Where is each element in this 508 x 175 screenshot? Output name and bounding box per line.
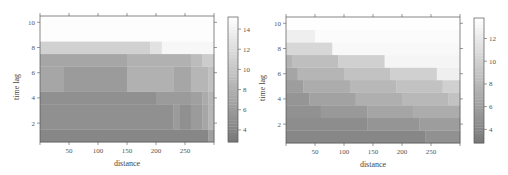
- colorbar-swatch: [474, 96, 484, 99]
- heatmap-panel-1: 50100150200250246810distancetime lag4681…: [12, 13, 251, 168]
- colorbar-tick-label: 4: [489, 126, 493, 134]
- heatmap-cell: [443, 80, 461, 93]
- colorbar-swatch: [228, 76, 238, 79]
- colorbar-swatch: [474, 90, 484, 93]
- colorbar-tick-label: 10: [489, 58, 497, 66]
- colorbar-swatch: [474, 27, 484, 30]
- colorbar-swatch: [228, 101, 238, 104]
- colorbar-swatch: [474, 65, 484, 68]
- heatmap-cell: [338, 55, 385, 68]
- colorbar-swatch: [474, 46, 484, 49]
- heatmap-cell: [367, 118, 420, 131]
- heatmap-cell: [202, 104, 208, 130]
- colorbar-swatch: [474, 102, 484, 105]
- heatmap-cell: [315, 30, 460, 43]
- heatmap-cell: [202, 54, 214, 67]
- x-tick-label: 200: [151, 147, 162, 155]
- y-tick-label: 6: [32, 69, 36, 77]
- colorbar-swatch: [474, 62, 484, 65]
- heatmap-cell: [390, 67, 437, 80]
- heatmap-cell: [40, 92, 156, 105]
- colorbar-swatch: [228, 86, 238, 89]
- y-tick-label: 4: [32, 94, 36, 102]
- heatmap-cell: [286, 93, 310, 106]
- heatmap-cell: [156, 92, 191, 105]
- colorbar-tick-label: 12: [243, 46, 251, 54]
- heatmap-panel-2: 50100150200250246810distancetime lag4681…: [258, 14, 497, 169]
- colorbar-swatch: [474, 43, 484, 46]
- colorbar-swatch: [228, 117, 238, 120]
- heatmap-cell: [150, 41, 162, 54]
- colorbar-swatch: [228, 92, 238, 95]
- colorbar-tick-label: 8: [489, 80, 493, 88]
- y-tick-label: 2: [32, 120, 36, 128]
- x-axis-label: distance: [360, 160, 387, 169]
- colorbar-swatch: [228, 36, 238, 39]
- heatmap-cell: [286, 30, 315, 43]
- colorbar-swatch: [228, 70, 238, 73]
- colorbar-tick-label: 12: [489, 35, 497, 43]
- colorbar-swatch: [228, 111, 238, 114]
- colorbar-swatch: [228, 20, 238, 23]
- colorbar-swatch: [228, 45, 238, 48]
- heatmap-cell: [127, 66, 174, 92]
- y-axis-label: time lag: [12, 74, 21, 100]
- heatmap-cell: [292, 55, 339, 68]
- colorbar-swatch: [228, 108, 238, 111]
- colorbar-swatch: [228, 80, 238, 83]
- colorbar-swatch: [474, 127, 484, 130]
- heatmap-cell: [356, 93, 403, 106]
- heatmap-cell: [286, 105, 321, 118]
- heatmap-cell: [286, 80, 304, 93]
- colorbar-tick-label: 10: [243, 66, 251, 74]
- heatmap-cell: [208, 104, 214, 130]
- colorbar-swatch: [228, 48, 238, 51]
- y-tick-label: 8: [32, 44, 36, 52]
- colorbar-swatch: [474, 137, 484, 140]
- heatmap-cell: [448, 93, 460, 106]
- colorbar: 468101214: [228, 17, 251, 142]
- heatmap-cell: [162, 41, 215, 54]
- colorbar-swatch: [474, 109, 484, 112]
- heatmap-cell: [191, 104, 203, 130]
- colorbar-swatch: [228, 114, 238, 117]
- colorbar-swatch: [228, 120, 238, 123]
- colorbar-swatch: [474, 99, 484, 102]
- heatmap-cell: [396, 80, 443, 93]
- colorbar-tick-label: 14: [243, 26, 251, 34]
- colorbar-swatch: [474, 59, 484, 62]
- heatmap-cell: [191, 54, 203, 67]
- heatmap-cell: [40, 66, 64, 92]
- colorbar-swatch: [228, 95, 238, 98]
- colorbar-swatch: [474, 77, 484, 80]
- heatmap-cell: [344, 67, 391, 80]
- colorbar-swatch: [228, 105, 238, 108]
- colorbar-swatch: [228, 58, 238, 61]
- heatmap-cell: [40, 41, 151, 54]
- heatmap-cell: [367, 105, 414, 118]
- x-axis-label: distance: [114, 159, 141, 168]
- colorbar-swatch: [228, 51, 238, 54]
- colorbar-swatch: [474, 37, 484, 40]
- heatmap-cell: [298, 67, 345, 80]
- heatmap-cell: [191, 66, 209, 92]
- heatmap-cell: [286, 42, 333, 55]
- colorbar-swatch: [228, 89, 238, 92]
- heatmap-cell: [208, 92, 214, 105]
- colorbar-swatch: [474, 74, 484, 77]
- colorbar-swatch: [474, 84, 484, 87]
- heatmap-cell: [321, 105, 368, 118]
- colorbar-swatch: [228, 30, 238, 33]
- heatmap-cell: [425, 130, 460, 143]
- heatmap-cell: [173, 66, 191, 92]
- heatmap-cell: [385, 55, 461, 68]
- colorbar-swatch: [474, 131, 484, 134]
- heatmap-cell: [437, 67, 461, 80]
- heatmap-cell: [303, 80, 350, 93]
- colorbar-swatch: [474, 56, 484, 59]
- colorbar-swatch: [228, 133, 238, 136]
- colorbar-swatch: [228, 39, 238, 42]
- heatmap-cell: [350, 80, 397, 93]
- heatmap-cell: [286, 17, 460, 30]
- colorbar-swatch: [228, 55, 238, 58]
